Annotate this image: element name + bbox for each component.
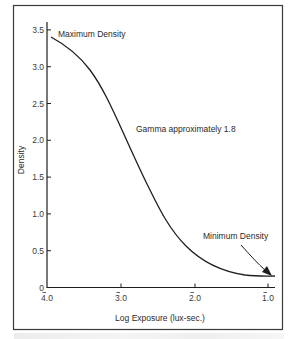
y-tick-label: 1.5 [32,172,44,182]
y-tick-label: 0.5 [32,246,44,256]
x-tick-label: 2.0 [189,293,201,303]
cropped-caption-line [14,333,284,339]
y-tick-labels: 0 0.5 1.0 1.5 2.0 2.5 3.0 3.5 [32,25,44,293]
x-tick-labels: 4.0 3.0 2.0 1.0 [41,293,274,304]
y-tick-label: 3.5 [32,25,44,35]
arrow-icon [241,245,272,276]
annotation-gamma: Gamma approximately 1.8 [136,124,236,134]
y-tick-label: 0 [39,283,44,293]
y-tick-label: 2.0 [32,135,44,145]
characteristic-curve-chart: 0 0.5 1.0 1.5 2.0 2.5 3.0 3.5 4.0 3.0 2.… [0,0,288,339]
x-tick-label: 4.0 [41,293,53,303]
x-axis-title: Log Exposure (lux-sec.) [115,313,205,323]
y-tick-label: 2.5 [32,99,44,109]
annotation-minimum-density: Minimum Density [203,231,269,241]
annotation-maximum-density: Maximum Density [58,29,126,39]
chart-frame [14,6,283,330]
x-tick-label: 3.0 [115,293,127,303]
x-tick-label: 1.0 [262,293,274,303]
y-tick-label: 1.0 [32,209,44,219]
y-axis-title: Density [16,145,26,174]
y-tick-label: 3.0 [32,62,44,72]
